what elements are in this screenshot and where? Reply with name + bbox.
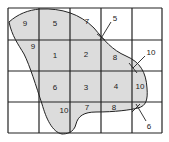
cell-label: 7 [85,103,90,112]
cell-label: 1 [53,51,58,60]
cell-label: 7 [85,17,90,26]
cell-label: 2 [84,50,89,59]
cell-label: 10 [60,106,69,115]
cell-label: 9 [23,19,28,28]
callout-label: 6 [147,122,152,131]
cell-label: 8 [112,103,117,112]
cell-label: 10 [136,82,145,91]
cell-label: 4 [114,82,119,91]
cell-label: 8 [113,53,118,62]
cell-label: 6 [53,83,58,92]
cell-label: 9 [31,42,36,51]
callout-label: 10 [147,48,156,57]
cell-label: 3 [84,83,89,92]
grid-diagram: 9 5 7 9 1 2 8 6 3 4 10 10 7 8 5 10 6 [0,0,169,142]
callout-label: 5 [113,14,118,23]
cell-label: 5 [53,19,58,28]
